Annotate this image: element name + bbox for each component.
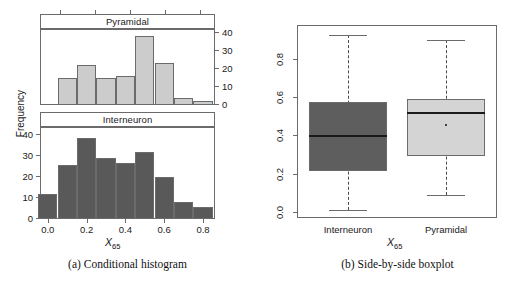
axis-tick-bottom (125, 219, 126, 223)
panel-a-xlabel: X65 (105, 236, 120, 251)
axis-tick-left (36, 134, 40, 135)
axis-tick-bottom (203, 219, 204, 223)
axis-ticklabel-left: 0.4 (274, 126, 285, 146)
axis-ticklabel-left: 40 (17, 129, 33, 140)
axis-ticklabel-left: 0.6 (274, 88, 285, 108)
boxplot-box-pyramidal (407, 99, 485, 157)
panel-b-xlabel-subscript: 65 (394, 242, 402, 251)
axis-ticklabel-left: 30 (17, 150, 33, 161)
axis-ticklabel-bottom: 0.8 (193, 224, 213, 235)
boxplot-group-label-pyramidal: Pyramidal (406, 224, 486, 235)
histogram-bar-interneuron (77, 138, 96, 220)
histogram-bar-interneuron (116, 163, 135, 219)
boxplot-whisker-cap-lower-pyramidal (427, 195, 465, 196)
boxplot-point-pyramidal (445, 124, 447, 126)
panel-a-caption: (a) Conditional histogram (20, 258, 235, 270)
histogram-bar-interneuron (174, 202, 193, 219)
axis-tick-right (215, 50, 219, 51)
axis-ticklabel-bottom: 0.6 (154, 224, 174, 235)
axis-tick-bottom (48, 219, 49, 223)
panel-b-caption: (b) Side-by-side boxplot (290, 258, 505, 270)
strip-tick (165, 10, 166, 14)
histogram-bar-interneuron (38, 194, 57, 219)
histogram-bar-pyramidal (96, 78, 115, 105)
axis-ticklabel-left: 0 (23, 213, 33, 224)
axis-ticklabel-right: 20 (222, 63, 233, 74)
axis-tick-right (215, 68, 219, 69)
axis-ticklabel-left: 0.2 (274, 164, 285, 184)
histogram-bar-pyramidal (58, 78, 77, 105)
panel-b-xlabel-text: X (387, 236, 394, 248)
histogram-bar-interneuron (193, 207, 212, 220)
axis-tick-left (36, 176, 40, 177)
boxplot-whisker-cap-upper-interneuron (329, 35, 367, 36)
axis-tick-left (293, 212, 297, 213)
axis-tick-bottom (87, 219, 88, 223)
axis-ticklabel-left: 0.8 (274, 49, 285, 69)
axis-ticklabel-bottom: 0.0 (38, 224, 58, 235)
axis-tick-left (293, 135, 297, 136)
axis-ticklabel-right: 40 (222, 27, 233, 38)
axis-ticklabel-right: 0 (222, 99, 227, 110)
strip-pyramidal-label: Pyramidal (106, 16, 149, 27)
axis-tick-left (36, 197, 40, 198)
axis-ticklabel-bottom: 0.2 (77, 224, 97, 235)
boxplot-median-pyramidal (407, 112, 485, 114)
strip-interneuron: Interneuron (40, 112, 215, 127)
axis-ticklabel-right: 30 (222, 45, 233, 56)
axis-tick-left (36, 218, 40, 219)
strip-tick (200, 10, 201, 14)
axis-ticklabel-right: 10 (222, 81, 233, 92)
strip-pyramidal: Pyramidal (40, 14, 215, 29)
histogram-bar-pyramidal (193, 101, 212, 105)
panel-b-xlabel: X65 (387, 236, 402, 251)
axis-tick-right (215, 86, 219, 87)
strip-interneuron-label: Interneuron (103, 114, 153, 125)
boxplot-whisker-cap-lower-interneuron (329, 210, 367, 211)
histogram-bar-pyramidal (155, 63, 174, 105)
panel-a-xlabel-subscript: 65 (112, 242, 120, 251)
axis-ticklabel-left: 10 (17, 192, 33, 203)
axis-tick-right (215, 32, 219, 33)
histogram-bar-interneuron (96, 158, 115, 219)
strip-tick (130, 10, 131, 14)
boxplot-whisker-cap-upper-pyramidal (427, 40, 465, 41)
axis-tick-right (215, 104, 219, 105)
axis-tick-left (293, 174, 297, 175)
axis-ticklabel-left: 0.0 (274, 203, 285, 223)
axis-tick-bottom (164, 219, 165, 223)
boxplot-group-label-interneuron: Interneuron (308, 224, 388, 235)
histogram-bar-pyramidal (116, 76, 135, 105)
axis-tick-left (293, 59, 297, 60)
histogram-bar-pyramidal (174, 98, 193, 105)
boxplot-median-interneuron (309, 135, 387, 137)
axis-tick-left (293, 97, 297, 98)
histogram-bar-pyramidal (135, 36, 154, 105)
axis-tick-left (36, 155, 40, 156)
histogram-bar-interneuron (135, 152, 154, 219)
panel-a-xlabel-text: X (105, 236, 112, 248)
figure-container: Frequency Pyramidal 0 10 20 30 40 (0, 0, 510, 284)
strip-tick (95, 10, 96, 14)
axis-ticklabel-left: 20 (17, 171, 33, 182)
histogram-bar-interneuron (155, 177, 174, 219)
strip-tick (60, 10, 61, 14)
axis-ticklabel-bottom: 0.4 (115, 224, 135, 235)
histogram-bar-pyramidal (77, 65, 96, 105)
histogram-bar-interneuron (58, 165, 77, 219)
